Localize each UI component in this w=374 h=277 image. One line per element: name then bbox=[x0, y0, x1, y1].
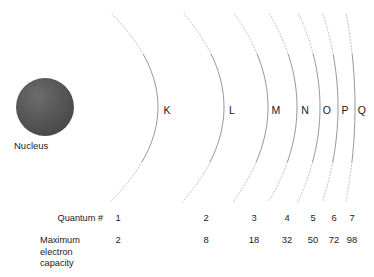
atomic-shell-diagram: KLMNOPQ Nucleus Quantum # Maximum electr… bbox=[0, 0, 374, 277]
nucleus-label: Nucleus bbox=[14, 141, 48, 152]
shell-arc-o-dotted bbox=[299, 14, 313, 54]
shell-arc-m-solid bbox=[256, 54, 268, 162]
nucleus-circle bbox=[16, 78, 74, 136]
shell-arc-m-dotted bbox=[234, 14, 257, 54]
quantum-number-value-l: 2 bbox=[203, 213, 208, 222]
max-electron-capacity-value-o: 50 bbox=[308, 235, 318, 244]
shell-arc-m-dotted bbox=[233, 162, 256, 202]
shell-label-q: Q bbox=[358, 105, 366, 116]
quantum-number-row-label: Quantum # bbox=[58, 213, 103, 225]
max-electron-capacity-value-l: 8 bbox=[203, 235, 208, 244]
shell-arc-l-dotted bbox=[182, 162, 210, 202]
shell-label-o: O bbox=[323, 105, 331, 116]
quantum-number-value-p: 6 bbox=[331, 213, 336, 222]
shell-arc-o-dotted bbox=[298, 162, 313, 202]
shell-arc-k-solid bbox=[142, 54, 158, 162]
shell-arc-n-dotted bbox=[270, 14, 289, 54]
shell-arc-p-solid bbox=[333, 54, 338, 162]
max-electron-capacity-row-label: Maximum electron capacity bbox=[40, 235, 80, 270]
shell-label-p: P bbox=[341, 105, 348, 116]
shell-label-k: K bbox=[163, 105, 170, 116]
shell-arc-q-solid bbox=[352, 54, 355, 162]
shell-arc-k-dotted bbox=[110, 162, 142, 202]
quantum-number-value-n: 4 bbox=[284, 213, 289, 222]
quantum-number-value-k: 1 bbox=[115, 213, 120, 222]
shell-arc-k-dotted bbox=[112, 14, 143, 54]
capacity-label-line-3: capacity bbox=[40, 258, 74, 268]
shell-arc-n-solid bbox=[287, 54, 297, 162]
quantum-number-value-o: 5 bbox=[310, 213, 315, 222]
shell-label-n: N bbox=[301, 105, 309, 116]
quantum-number-value-q: 7 bbox=[349, 213, 354, 222]
max-electron-capacity-value-m: 18 bbox=[249, 235, 259, 244]
shell-arc-o-solid bbox=[313, 54, 320, 162]
shell-arc-p-dotted bbox=[322, 162, 332, 202]
shell-arc-n-dotted bbox=[268, 162, 287, 202]
shell-label-m: M bbox=[272, 105, 281, 116]
shell-arc-l-dotted bbox=[184, 14, 211, 54]
max-electron-capacity-value-p: 72 bbox=[329, 235, 339, 244]
max-electron-capacity-value-n: 32 bbox=[282, 235, 292, 244]
quantum-number-value-m: 3 bbox=[251, 213, 256, 222]
capacity-label-line-1: Maximum bbox=[40, 235, 80, 245]
max-electron-capacity-value-k: 2 bbox=[115, 235, 120, 244]
shell-arc-q-dotted bbox=[346, 14, 352, 54]
shell-arc-l-solid bbox=[210, 54, 224, 162]
max-electron-capacity-value-q: 98 bbox=[347, 235, 357, 244]
shell-label-l: L bbox=[229, 105, 235, 116]
capacity-label-line-2: electron bbox=[40, 247, 73, 257]
shell-arc-p-dotted bbox=[323, 14, 333, 54]
shell-arc-q-dotted bbox=[346, 162, 352, 202]
